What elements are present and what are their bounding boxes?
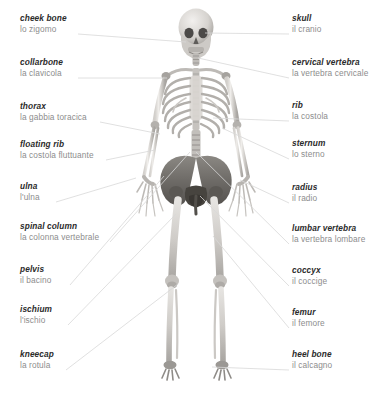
bone-label-heel-bone: heel boneil calcagno: [292, 350, 332, 371]
bone-label-italian: la costola fluttuante: [20, 151, 94, 161]
bone-label-english: collarbone: [20, 58, 63, 68]
bone-label-italian: il coccige: [292, 277, 327, 287]
skeleton-diagram: cheek bonelo zigomocollarbonela clavicol…: [0, 0, 392, 398]
bone-label-femur: femuril femore: [292, 308, 325, 329]
bone-label-floating-rib: floating ribla costola fluttuante: [20, 140, 94, 161]
leader-line-femur: [213, 236, 289, 328]
bone-label-english: cervical vertebra: [292, 58, 368, 68]
bone-label-italian: la costola: [292, 112, 328, 122]
bone-label-italian: la clavicola: [20, 69, 63, 79]
bone-label-english: pelvis: [20, 265, 51, 275]
bone-label-radius: radiusil radio: [292, 183, 318, 204]
leader-line-floating-rib: [106, 150, 155, 160]
bone-label-italian: il cranio: [292, 25, 322, 35]
bone-label-english: skull: [292, 14, 322, 24]
bone-label-thorax: thoraxla gabbia toracica: [20, 102, 87, 123]
bone-label-english: floating rib: [20, 140, 94, 150]
bone-label-lumbar-vertebra: lumbar vertebrala vertebra lombare: [292, 224, 365, 245]
bone-label-english: thorax: [20, 102, 87, 112]
leader-line-radius: [240, 180, 289, 203]
leader-line-heel-bone: [212, 367, 289, 370]
bone-label-italian: la gabbia toracica: [20, 113, 87, 123]
bone-label-english: cheek bone: [20, 14, 67, 24]
bone-label-english: lumbar vertebra: [292, 224, 365, 234]
bone-label-english: radius: [292, 183, 318, 193]
bone-label-ulna: ulnal'ulna: [20, 182, 40, 203]
bone-label-italian: il bacino: [20, 276, 51, 286]
bone-label-italian: lo zigomo: [20, 25, 67, 35]
bone-label-cheek-bone: cheek bonelo zigomo: [20, 14, 67, 35]
leader-line-ulna: [56, 178, 136, 202]
bone-label-italian: la vertebra lombare: [292, 235, 365, 245]
bone-label-italian: il femore: [292, 319, 325, 329]
bone-label-english: coccyx: [292, 266, 327, 276]
bone-label-italian: la vertebra cervicale: [292, 69, 368, 79]
bone-label-english: spinal column: [20, 222, 99, 232]
leader-line-skull: [205, 33, 289, 34]
bone-label-collarbone: collarbonela clavicola: [20, 58, 63, 79]
bone-label-italian: la rotula: [20, 361, 54, 371]
bone-label-skull: skullil cranio: [292, 14, 322, 35]
leader-line-kneecap: [66, 284, 178, 370]
bone-label-italian: la colonna vertebrale: [20, 233, 99, 243]
bone-label-italian: il calcagno: [292, 361, 332, 371]
bone-label-spinal-column: spinal columnla colonna vertebrale: [20, 222, 99, 243]
leader-line-cervical-vertebra: [198, 58, 289, 78]
bone-label-rib: ribla costola: [292, 101, 328, 122]
bone-label-cervical-vertebra: cervical vertebrala vertebra cervicale: [292, 58, 368, 79]
leader-line-coccyx: [200, 196, 289, 286]
leader-line-rib: [213, 118, 289, 121]
bone-label-english: ischium: [20, 305, 52, 315]
bone-label-sternum: sternumlo sterno: [292, 139, 325, 160]
bone-label-italian: il radio: [292, 194, 318, 204]
bone-label-pelvis: pelvisil bacino: [20, 265, 51, 286]
leader-line-thorax: [100, 122, 160, 134]
bone-label-english: sternum: [292, 139, 325, 149]
leader-line-cheek-bone: [78, 34, 186, 42]
bone-label-italian: l'ulna: [20, 193, 40, 203]
bone-label-english: femur: [292, 308, 325, 318]
bone-label-english: rib: [292, 101, 328, 111]
bone-label-ischium: ischiuml'ischio: [20, 305, 52, 326]
bone-label-italian: l'ischio: [20, 316, 52, 326]
bone-label-italian: lo sterno: [292, 150, 325, 160]
bone-label-english: kneecap: [20, 350, 54, 360]
bone-label-english: heel bone: [292, 350, 332, 360]
leader-line-lumbar-vertebra: [196, 152, 289, 244]
bone-label-coccyx: coccyxil coccige: [292, 266, 327, 287]
leader-line-spinal-column: [110, 152, 190, 242]
bone-label-english: ulna: [20, 182, 40, 192]
leader-line-sternum: [222, 128, 289, 159]
bone-label-kneecap: kneecapla rotula: [20, 350, 54, 371]
